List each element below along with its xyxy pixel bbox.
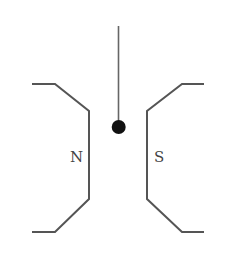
diagram-svg bbox=[0, 0, 239, 259]
pendulum-ball bbox=[112, 120, 126, 134]
south-pole-label: S bbox=[154, 150, 164, 165]
diagram-canvas: N S bbox=[0, 0, 239, 259]
north-pole-label: N bbox=[70, 150, 83, 165]
